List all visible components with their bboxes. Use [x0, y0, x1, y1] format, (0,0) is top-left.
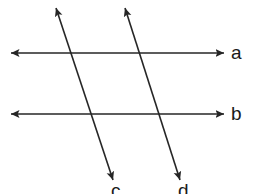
line-c	[56, 8, 113, 180]
diagram-canvas	[0, 0, 259, 194]
line-label-d: d	[178, 181, 189, 194]
line-label-a: a	[231, 43, 242, 62]
line-d	[125, 8, 180, 180]
geometry-diagram: a b c d	[0, 0, 259, 194]
line-label-b: b	[231, 104, 242, 123]
line-label-c: c	[111, 181, 121, 194]
